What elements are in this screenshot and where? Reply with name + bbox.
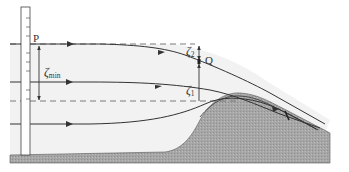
label-p: P [33, 33, 39, 44]
depth-gauge-staff [21, 7, 30, 155]
point-q-marker [198, 59, 201, 64]
zeta-2-subscript: 2 [191, 50, 195, 59]
flow-diagram [0, 0, 349, 172]
label-zeta-1: ζ1 [186, 84, 195, 98]
label-zeta-2: ζ2 [186, 45, 195, 59]
zeta-min-subscript: min [49, 71, 61, 80]
zeta-1-subscript: 1 [191, 89, 195, 98]
label-zeta-min: ζmin [44, 66, 61, 80]
label-q: Q [205, 55, 213, 66]
